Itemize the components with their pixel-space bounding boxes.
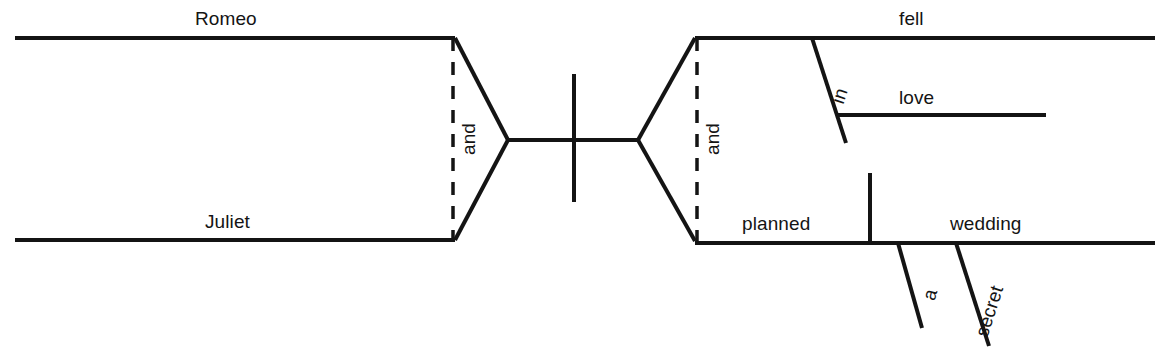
label-and-predicate: and bbox=[703, 123, 722, 155]
label-juliet: Juliet bbox=[205, 212, 250, 231]
connector-apex-to-planned bbox=[638, 140, 695, 241]
connector-juliet-to-apex bbox=[455, 140, 508, 240]
label-and-subject: and bbox=[459, 123, 478, 155]
slant-line-article-a bbox=[898, 243, 922, 328]
label-love: love bbox=[899, 88, 934, 107]
label-wedding: wedding bbox=[950, 214, 1021, 233]
label-fell: fell bbox=[899, 9, 924, 28]
sentence-diagram-canvas: Romeo Juliet and and fell in love planne… bbox=[0, 0, 1159, 354]
label-planned: planned bbox=[742, 214, 810, 233]
label-romeo: Romeo bbox=[195, 9, 257, 28]
connector-apex-to-fell bbox=[638, 38, 695, 140]
